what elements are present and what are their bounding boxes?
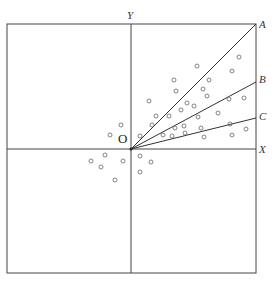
data-point — [174, 89, 178, 93]
data-point — [202, 135, 206, 139]
data-point — [147, 99, 151, 103]
data-point — [138, 154, 142, 158]
data-point — [244, 127, 248, 131]
origin-label: O — [118, 131, 127, 146]
regression-lines — [131, 24, 256, 149]
line-c-label: C — [259, 110, 267, 122]
data-point — [167, 114, 171, 118]
data-point — [230, 133, 234, 137]
line-c — [131, 118, 256, 149]
line-b — [131, 82, 256, 149]
data-point — [199, 126, 203, 130]
data-point — [172, 78, 176, 82]
data-point — [108, 133, 112, 137]
data-point — [196, 115, 200, 119]
data-point — [216, 111, 220, 115]
data-point — [205, 94, 209, 98]
line-b-label: B — [259, 73, 266, 85]
data-point — [185, 101, 189, 105]
data-point — [138, 134, 142, 138]
data-point — [150, 123, 154, 127]
line-a — [131, 24, 256, 149]
data-point — [182, 124, 186, 128]
data-point — [230, 69, 234, 73]
data-point — [149, 160, 153, 164]
data-point — [89, 159, 93, 163]
data-point — [119, 123, 123, 127]
data-point — [99, 165, 103, 169]
data-point — [121, 159, 125, 163]
y-axis-label: Y — [127, 9, 135, 21]
line-a-label: A — [258, 18, 266, 30]
data-point — [138, 170, 142, 174]
data-point — [173, 126, 177, 130]
data-point — [179, 108, 183, 112]
data-point — [227, 97, 231, 101]
data-point — [195, 64, 199, 68]
data-point — [103, 153, 107, 157]
data-point — [161, 133, 165, 137]
data-point — [242, 96, 246, 100]
data-point — [192, 104, 196, 108]
data-point — [183, 131, 187, 135]
data-points — [89, 55, 248, 182]
data-point — [154, 114, 158, 118]
data-point — [201, 87, 205, 91]
scatter-diagram: Y X O A B C — [0, 0, 274, 283]
data-point — [170, 134, 174, 138]
data-point — [113, 178, 117, 182]
data-point — [237, 55, 241, 59]
origin-point — [130, 148, 133, 151]
data-point — [207, 78, 211, 82]
x-axis-label: X — [258, 143, 267, 155]
